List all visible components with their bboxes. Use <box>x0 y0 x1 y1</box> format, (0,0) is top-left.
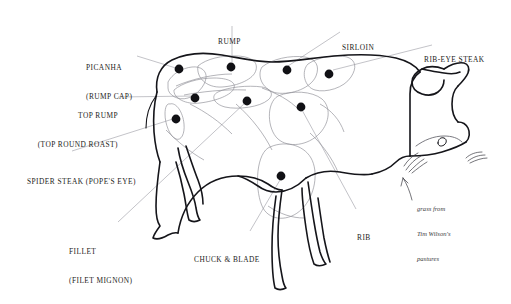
cow-belly <box>178 176 282 233</box>
dot-picanha <box>175 65 184 74</box>
label-picanha-line1: PICANHA <box>86 63 132 73</box>
label-chuck-and-blade: CHUCK & BLADE <box>194 236 260 284</box>
label-rib-line1: RIB <box>357 233 371 243</box>
note-grass-provenance: grass from Tim Wilson's pastures <box>417 189 450 279</box>
dot-fillet <box>243 97 252 106</box>
label-top-rump-line1: TOP RUMP <box>0 111 118 121</box>
leader-line-picanha <box>137 56 179 69</box>
label-rib-eye-steak-line1: RIB-EYE STEAK <box>424 55 485 65</box>
label-rib-eye-steak: RIB-EYE STEAK <box>424 36 485 84</box>
note-line2: Tim Wilson's <box>417 230 450 238</box>
cut-region-outlines <box>165 56 355 218</box>
cow-face-front <box>452 86 458 122</box>
region-contour-3 <box>262 88 299 110</box>
beef-cuts-diagram: PICANHA (RUMP CAP) TOP RUMP (TOP ROUND R… <box>0 0 511 304</box>
cow-hind-leg-rear <box>153 162 178 239</box>
note-arrow <box>401 178 412 200</box>
label-sirloin: SIRLOIN <box>342 24 374 72</box>
dot-spider-steak <box>172 115 181 124</box>
label-sirloin-line1: SIRLOIN <box>342 43 374 53</box>
label-spider-steak-line1: SPIDER STEAK (POPE'S EYE) <box>27 177 136 187</box>
dot-sirloin <box>283 66 292 75</box>
label-rump: RUMP <box>218 18 241 66</box>
dot-rib <box>297 103 306 112</box>
dot-rib-eye-steak <box>325 70 334 79</box>
leader-line-fillet <box>118 102 246 222</box>
label-top-rump-line2: (TOP ROUND ROAST) <box>0 140 118 150</box>
cow-belly-2 <box>238 176 306 192</box>
note-line3: pastures <box>417 255 450 263</box>
region-contour-9 <box>190 104 232 134</box>
cow-muzzle <box>458 122 469 142</box>
dot-top-rump <box>191 94 200 103</box>
region-contour-6 <box>166 130 204 160</box>
cow-chest <box>306 171 372 178</box>
cow-hind-leg-front <box>176 148 200 222</box>
region-chuck-and-blade <box>258 144 316 218</box>
cow-front-leg-near <box>272 190 286 290</box>
cow-eye <box>438 138 446 146</box>
cow-hindquarter <box>154 92 160 162</box>
region-rib <box>269 92 328 144</box>
label-rump-line1: RUMP <box>218 37 241 47</box>
note-line1: grass from <box>417 205 450 213</box>
label-chuck-and-blade-line1: CHUCK & BLADE <box>194 255 260 265</box>
label-fillet: FILLET (FILET MIGNON) <box>69 228 132 304</box>
label-fillet-line1: FILLET <box>69 247 132 257</box>
label-spider-steak: SPIDER STEAK (POPE'S EYE) <box>27 158 136 206</box>
cow-cheek <box>416 136 462 146</box>
label-fillet-line2: (FILET MIGNON) <box>69 276 132 286</box>
region-contour-5 <box>236 104 272 150</box>
dot-chuck-and-blade <box>277 172 286 181</box>
cow-neck-top <box>410 72 420 156</box>
label-rib: RIB <box>357 214 371 262</box>
